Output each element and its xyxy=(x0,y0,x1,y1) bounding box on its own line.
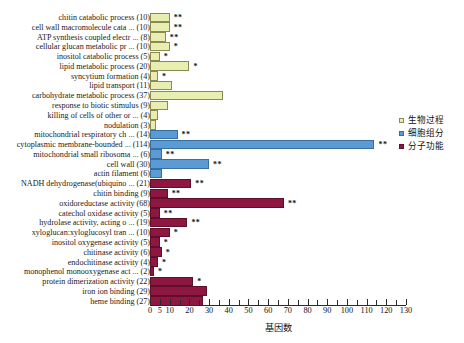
legend: 生物过程细胞组分分子功能 xyxy=(399,112,444,151)
x-axis-tick xyxy=(209,299,210,305)
x-axis-tick xyxy=(367,299,368,305)
x-axis-tick-label: 40 xyxy=(225,306,233,315)
x-axis-tick xyxy=(268,299,269,305)
x-axis-tick xyxy=(357,300,358,305)
legend-item[interactable]: 分子功能 xyxy=(399,138,444,151)
x-axis-tick xyxy=(239,300,240,305)
x-axis-tick xyxy=(258,300,259,305)
legend-swatch-icon xyxy=(399,144,404,149)
x-axis-tick xyxy=(386,299,387,305)
x-axis-tick xyxy=(288,299,289,305)
x-axis-tick-label: 60 xyxy=(264,306,272,315)
x-axis-tick-label: 80 xyxy=(303,306,311,315)
x-axis-tick-label: 100 xyxy=(341,306,353,315)
x-axis-tick xyxy=(396,300,397,305)
x-axis-tick xyxy=(180,300,181,305)
x-axis-tick xyxy=(150,299,151,305)
x-axis-tick xyxy=(248,299,249,305)
legend-swatch-icon xyxy=(399,118,404,123)
x-axis-tick-label: 50 xyxy=(244,306,252,315)
x-axis-tick-label: 5 xyxy=(158,306,162,315)
x-axis-tick-label: 30 xyxy=(205,306,213,315)
x-axis-tick xyxy=(337,300,338,305)
bar-category-label: heme binding (27) xyxy=(0,295,150,308)
x-axis-tick xyxy=(308,299,309,305)
x-axis-tick-label: 20 xyxy=(185,306,193,315)
x-axis-tick xyxy=(298,300,299,305)
x-axis-tick-label: 10 xyxy=(166,306,174,315)
legend-swatch-icon xyxy=(399,131,404,136)
x-axis-tick xyxy=(189,299,190,305)
plot-area: chitin catabolic process (10)**cell wall… xyxy=(0,0,464,343)
x-axis-tick-label: 120 xyxy=(380,306,392,315)
x-axis-tick xyxy=(160,299,161,305)
legend-item[interactable]: 生物过程 xyxy=(399,112,444,125)
x-axis-tick xyxy=(278,300,279,305)
x-axis-tick-label: 0 xyxy=(148,306,152,315)
legend-item[interactable]: 细胞组分 xyxy=(399,125,444,138)
x-axis-tick xyxy=(219,300,220,305)
x-axis-tick xyxy=(170,299,171,305)
x-axis-tick-label: 130 xyxy=(400,306,412,315)
go-enrichment-bar-chart: chitin catabolic process (10)**cell wall… xyxy=(0,0,464,343)
x-axis-tick xyxy=(317,300,318,305)
x-axis-tick xyxy=(229,299,230,305)
x-axis-title: 基因数 xyxy=(150,320,406,334)
x-axis-tick xyxy=(347,299,348,305)
x-axis-tick xyxy=(199,300,200,305)
legend-label: 分子功能 xyxy=(408,140,444,153)
x-axis-tick xyxy=(406,299,407,305)
x-axis-tick-label: 110 xyxy=(361,306,373,315)
x-axis-tick xyxy=(376,300,377,305)
x-axis-tick-label: 70 xyxy=(284,306,292,315)
x-axis-tick xyxy=(327,299,328,305)
x-axis-tick-label: 90 xyxy=(323,306,331,315)
